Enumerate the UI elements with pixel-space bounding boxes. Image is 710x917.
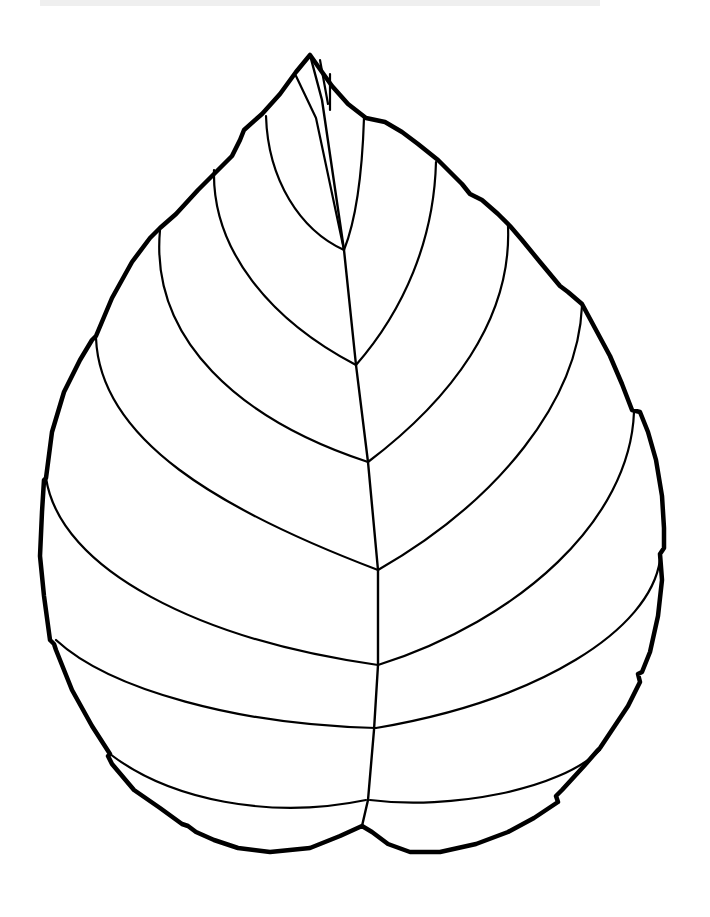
leaf-vein: [296, 76, 344, 250]
leaf-vein: [378, 412, 634, 665]
leaf-midrib: [310, 55, 378, 826]
leaf-vein: [266, 116, 344, 250]
leaf-vein: [368, 226, 508, 462]
leaf-vein: [370, 750, 600, 803]
leaf-vein: [46, 478, 378, 665]
leaf-outline: [40, 55, 664, 852]
leaf-veins: [46, 60, 660, 808]
leaf-vein: [159, 230, 368, 462]
leaf-vein: [376, 560, 660, 728]
leaf-vein: [214, 170, 356, 365]
leaf-drawing: [0, 0, 710, 917]
leaf-vein: [56, 640, 376, 728]
leaf-vein: [356, 162, 436, 365]
leaf-vein: [96, 338, 378, 570]
leaf-vein: [344, 118, 364, 250]
leaf-vein: [378, 306, 582, 570]
